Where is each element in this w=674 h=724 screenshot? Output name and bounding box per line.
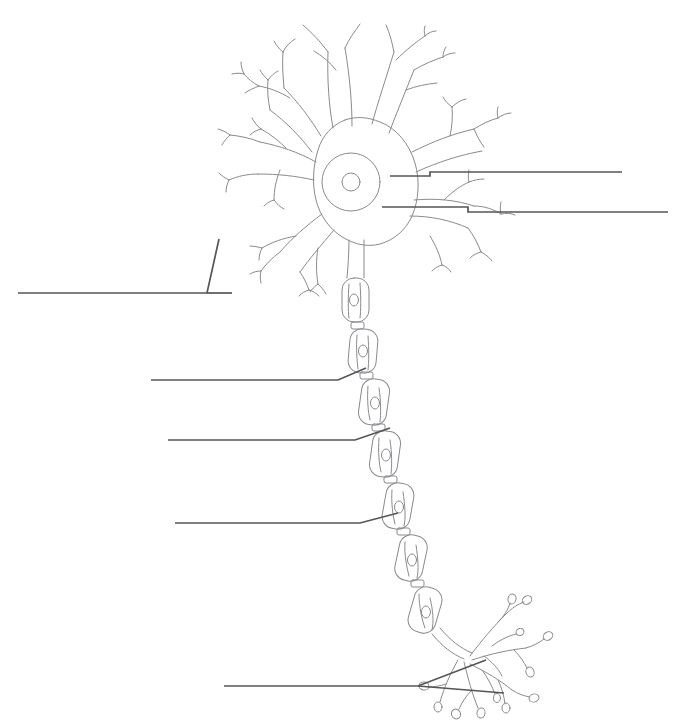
- leader-line-right-upper[interactable]: [390, 172, 622, 176]
- dendrite-branch-ul3: [274, 41, 283, 52]
- dendrite-branch-r4: [474, 118, 498, 129]
- dendrite-branch-l7: [229, 174, 258, 180]
- bouton-8: [450, 708, 462, 721]
- terminal-branch-4: [464, 662, 478, 708]
- dendrite-branch-ul4: [259, 86, 290, 98]
- terminal-branch-3a: [512, 690, 530, 697]
- terminal-branch-1a: [506, 602, 524, 614]
- bouton-6: [502, 703, 510, 713]
- dendrite-branch-ur2: [396, 36, 425, 60]
- dendrite-branch-l3: [250, 129, 261, 135]
- dendrite-twig-l2: [264, 200, 274, 206]
- dendrite-twig-ur1: [425, 31, 436, 36]
- bouton-11: [515, 627, 525, 637]
- neuron-drawing-group: [218, 24, 554, 720]
- dendrite-branch-ll7: [300, 272, 309, 290]
- bouton-12: [494, 694, 501, 703]
- dendrite-twig-ll4: [310, 284, 318, 292]
- dendrite-branch-l8: [219, 173, 229, 180]
- dendrite-trunk-right-b: [416, 151, 482, 172]
- dendrite-twig-ll3: [318, 284, 326, 294]
- dendrite-branch-l9: [226, 180, 229, 192]
- dendrite-twig-ul1: [241, 62, 244, 74]
- dendrite-branch-ll2: [250, 246, 262, 248]
- dendrite-branch-l5: [218, 129, 230, 135]
- bouton-10: [434, 702, 442, 712]
- dendrite-twig-ur3: [443, 53, 455, 57]
- dendrite-twig-ur2: [424, 26, 425, 36]
- dendrite-twig-r1: [498, 113, 511, 118]
- dendrite-branch-ur4: [406, 83, 437, 90]
- dendrite-branch-r5: [474, 129, 484, 147]
- dendrite-branch-ur3: [414, 57, 443, 70]
- terminal-branch-4a: [459, 690, 472, 709]
- leader-line-bottom-terminals-fork[interactable]: [418, 686, 504, 693]
- dendrite-trunk-left: [260, 142, 316, 162]
- dendrite-branch-ul5: [244, 74, 259, 86]
- terminal-stem-b: [440, 628, 472, 653]
- dendrite-trunk-low-left: [280, 214, 322, 252]
- myelin-segment-6: [393, 533, 430, 584]
- terminal-branch-2b: [514, 650, 527, 668]
- dendrite-twig-ll2: [299, 290, 309, 296]
- dendrite-branch-ll6: [260, 271, 261, 283]
- bouton-5: [528, 693, 540, 703]
- nucleus: [322, 153, 380, 211]
- dendrite-branch-ul7: [268, 80, 270, 110]
- dendrite-branch-rl8: [430, 236, 442, 265]
- terminal-twig-c: [492, 634, 516, 646]
- terminal-branch-3: [470, 664, 512, 690]
- neuron-diagram: [0, 0, 674, 724]
- dendrite-trunk-up-right: [372, 52, 394, 124]
- dendrite-twig-rl2: [470, 252, 481, 258]
- dendrite-branch-uc1: [303, 25, 328, 52]
- leader-line-right-lower[interactable]: [382, 207, 668, 212]
- soma-outline: [314, 118, 419, 246]
- dendrite-trunk-up-right-b: [389, 70, 414, 133]
- dendrite-twig-ul2: [232, 73, 244, 74]
- nucleolus: [342, 173, 360, 191]
- dendrite-twig-rl4: [432, 265, 442, 271]
- bouton-4: [525, 666, 536, 678]
- dendrite-branch-rl2: [469, 179, 484, 182]
- dendrite-trunk-right-lower-b: [410, 216, 468, 228]
- axon-hillock-left: [347, 240, 349, 278]
- dendrite-branch-rl7: [468, 228, 481, 252]
- dendrite-branch-uc3: [314, 51, 336, 70]
- dendrite-branch-rl1: [444, 182, 469, 200]
- dendrite-branch-ul2: [283, 39, 295, 52]
- dendrite-trunk-up-left: [284, 88, 321, 136]
- leader-lines-group: [18, 172, 668, 693]
- bouton-1: [521, 594, 534, 606]
- bouton-7: [476, 707, 486, 718]
- dendrite-branch-ll4: [261, 252, 280, 271]
- leader-line-left-node[interactable]: [175, 513, 398, 523]
- dendrite-branch-ll5: [250, 271, 261, 274]
- dendrite-twig-r2: [497, 107, 498, 118]
- bouton-3: [542, 630, 555, 642]
- dendrite-branch-r1: [450, 107, 452, 136]
- myelin-segment-2: [347, 328, 379, 374]
- terminal-branch-2a: [526, 639, 544, 648]
- myelin-segment-7: [405, 584, 445, 636]
- leader-line-left-myelin[interactable]: [151, 368, 366, 380]
- myelin-segment-1: [342, 278, 369, 322]
- dendrite-branch-uc2: [345, 24, 360, 48]
- dendrite-twig-rl3: [442, 265, 451, 272]
- leader-line-left-schwann[interactable]: [168, 428, 390, 440]
- dendrite-branch-ul6: [245, 86, 259, 93]
- leader-line-left-dendrite-bracket[interactable]: [18, 239, 219, 293]
- dendrite-branch-rl5: [501, 213, 515, 215]
- dendrite-trunk-left-b: [258, 174, 314, 180]
- terminal-branch-1: [470, 614, 506, 656]
- myelin-segment-5: [380, 481, 416, 531]
- node-of-ranvier-1: [351, 322, 364, 329]
- dendrite-branch-ll8: [317, 248, 319, 284]
- dendrite-twig-ul3: [268, 71, 278, 80]
- dendrite-twig-rl1: [481, 252, 492, 261]
- myelin-segment-4: [368, 429, 402, 478]
- dendrite-trunk-right: [412, 129, 474, 152]
- dendrite-branch-ll1: [262, 236, 296, 248]
- dendrite-branch-l4: [230, 135, 260, 142]
- dendrite-branch-r3: [443, 97, 452, 107]
